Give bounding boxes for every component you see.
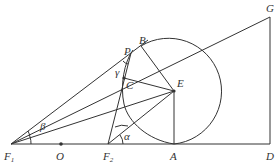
point-e (172, 89, 175, 92)
circle-arc (141, 38, 222, 144)
point-o (59, 142, 63, 146)
label-d: D (265, 150, 274, 162)
label-g: G (266, 2, 274, 14)
label-e: E (176, 77, 184, 89)
label-alpha: α (124, 130, 130, 142)
label-o: O (56, 150, 64, 162)
line-e-b (141, 46, 174, 91)
geometry-diagram: F1 O F2 A D G E B P C β α γ (0, 0, 278, 168)
label-f2: F2 (102, 150, 114, 164)
label-gamma: γ (115, 66, 120, 78)
label-beta: β (39, 120, 46, 132)
angle-arc-beta-b (28, 131, 30, 137)
line-f2-e (108, 91, 174, 144)
line-f1-e (11, 91, 174, 144)
angle-arc-alpha (120, 135, 123, 144)
label-c: C (126, 79, 134, 91)
label-p: P (123, 45, 131, 57)
label-a: A (169, 150, 177, 162)
label-f1: F1 (3, 150, 14, 164)
angle-arc-f2 (115, 125, 128, 127)
label-b: B (139, 34, 146, 46)
